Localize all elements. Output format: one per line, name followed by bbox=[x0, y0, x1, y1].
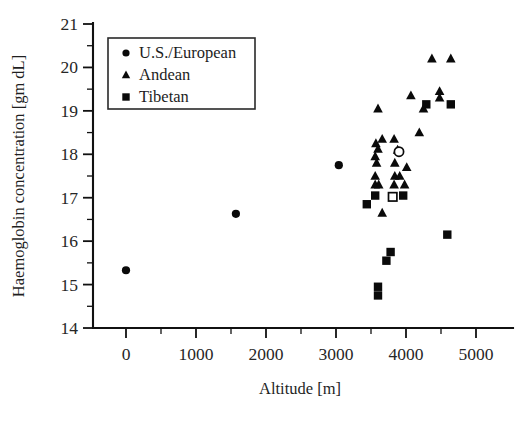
marker-square bbox=[443, 230, 451, 238]
legend-label: Tibetan bbox=[139, 87, 189, 106]
legend: U.S./EuropeanAndeanTibetan bbox=[108, 38, 255, 109]
marker-square bbox=[422, 100, 430, 108]
marker-triangle bbox=[389, 180, 399, 189]
marker-square bbox=[382, 256, 390, 264]
marker-triangle bbox=[415, 127, 425, 136]
marker-square bbox=[399, 191, 407, 199]
y-tick-label: 19 bbox=[61, 101, 79, 121]
y-tick-label: 21 bbox=[61, 14, 79, 34]
marker-square bbox=[374, 291, 382, 299]
marker-square bbox=[386, 248, 394, 256]
y-tick-label: 20 bbox=[61, 57, 79, 77]
marker-triangle bbox=[446, 54, 456, 63]
marker-circle-open bbox=[394, 147, 403, 156]
x-tick-label: 0 bbox=[122, 344, 131, 364]
y-axis-title: Haemoglobin concentration [gm dL] bbox=[9, 55, 28, 297]
marker-triangle bbox=[377, 208, 387, 217]
marker-square bbox=[447, 100, 455, 108]
y-tick-label: 15 bbox=[61, 275, 79, 295]
square-icon bbox=[122, 93, 129, 100]
y-axis-tick-labels: 1415161718192021 bbox=[61, 14, 79, 338]
marker-square bbox=[374, 283, 382, 291]
marker-triangle bbox=[373, 104, 383, 113]
x-tick-label: 1000 bbox=[179, 344, 214, 364]
marker-triangle bbox=[402, 162, 412, 171]
marker-triangle bbox=[390, 158, 400, 167]
x-axis-title: Altitude [m] bbox=[259, 379, 341, 398]
x-axis-tick-labels: 010002000300040005000 bbox=[122, 344, 494, 364]
y-tick-label: 18 bbox=[61, 144, 79, 164]
legend-label: U.S./European bbox=[139, 43, 236, 62]
y-tick-label: 14 bbox=[61, 318, 79, 338]
x-tick-label: 2000 bbox=[249, 344, 284, 364]
circle-icon bbox=[122, 49, 129, 56]
marker-triangle bbox=[406, 91, 416, 100]
y-axis-ticks bbox=[83, 24, 93, 328]
x-tick-label: 4000 bbox=[389, 344, 424, 364]
legend-label: Andean bbox=[139, 65, 190, 84]
marker-triangle bbox=[427, 54, 437, 63]
y-tick-label: 17 bbox=[61, 188, 79, 208]
x-axis-ticks bbox=[126, 328, 476, 338]
marker-circle bbox=[122, 266, 130, 274]
marker-triangle bbox=[370, 171, 380, 180]
marker-circle bbox=[232, 210, 240, 218]
marker-square bbox=[363, 200, 371, 208]
marker-square-open bbox=[389, 193, 397, 201]
y-tick-label: 16 bbox=[61, 231, 79, 251]
marker-square bbox=[371, 191, 379, 199]
plot-canvas: 1415161718192021 010002000300040005000 A… bbox=[0, 0, 528, 422]
marker-triangle bbox=[400, 180, 410, 189]
x-tick-label: 5000 bbox=[459, 344, 494, 364]
scatter-plot-figure: 1415161718192021 010002000300040005000 A… bbox=[0, 0, 528, 422]
marker-circle bbox=[335, 161, 343, 169]
x-tick-label: 3000 bbox=[319, 344, 354, 364]
marker-triangle bbox=[389, 134, 399, 143]
marker-triangle bbox=[377, 134, 387, 143]
